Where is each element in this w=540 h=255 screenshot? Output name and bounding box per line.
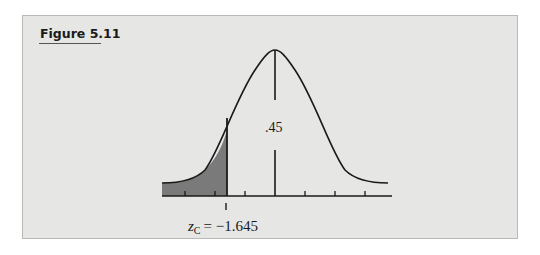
shaded-tail-region xyxy=(162,130,227,196)
z-subscript: C xyxy=(194,225,201,236)
critical-value-label: zC= −1.645 xyxy=(187,218,258,236)
normal-curve-chart: .45 zC= −1.645 xyxy=(0,0,540,255)
critical-value-text: = −1.645 xyxy=(204,218,258,234)
area-label: .45 xyxy=(265,120,283,135)
